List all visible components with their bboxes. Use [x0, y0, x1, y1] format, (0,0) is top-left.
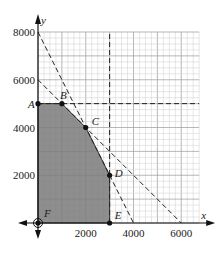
vertex-point-e: [107, 220, 112, 225]
x-axis-arrow-icon: [206, 220, 215, 226]
vertex-point-b: [59, 101, 64, 106]
y-tick-label: 4000: [13, 122, 36, 134]
vertex-point-f: [35, 220, 40, 225]
x-tick-label: 6000: [170, 227, 193, 239]
vertex-point-c: [83, 125, 88, 130]
vertex-point-a: [35, 101, 40, 106]
y-tick-label: 8000: [13, 26, 36, 38]
vertex-label-b: B: [60, 89, 67, 101]
vertex-label-d: D: [114, 167, 123, 179]
linear-programming-chart: xy 2000400060002000400060008000 ABCDEF: [0, 0, 216, 265]
vertex-label-e: E: [114, 209, 122, 221]
vertex-point-d: [107, 173, 112, 178]
vertex-label-c: C: [92, 115, 100, 127]
vertex-label-a: A: [27, 98, 35, 110]
y-axis-label: y: [40, 14, 46, 26]
x-tick-label: 4000: [123, 227, 146, 239]
y-axis-down-arrow-icon: [35, 230, 41, 239]
x-axis-label: x: [200, 209, 206, 221]
y-tick-label: 6000: [13, 74, 36, 86]
vertex-label-f: F: [43, 207, 51, 219]
y-tick-label: 2000: [13, 169, 36, 181]
x-tick-label: 2000: [75, 227, 98, 239]
x-axis-left-arrow-icon: [18, 220, 27, 226]
